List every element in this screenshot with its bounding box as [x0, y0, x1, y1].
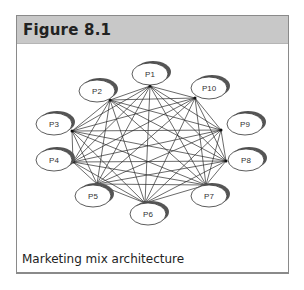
- node-label: P1: [145, 70, 155, 79]
- node-p5: P5: [75, 183, 114, 207]
- node-label: P7: [204, 192, 214, 201]
- node-label: P3: [49, 120, 59, 129]
- node-p2: P2: [79, 78, 118, 102]
- node-p4: P4: [36, 147, 75, 171]
- anchor-dot: [194, 97, 197, 100]
- edge-P2-P3: [72, 100, 110, 131]
- anchor-dot: [71, 130, 74, 133]
- network-diagram: P1P2P3P4P5P6P7P8P9P10: [0, 0, 304, 290]
- node-p6: P6: [130, 201, 169, 225]
- node-label: P5: [88, 192, 98, 201]
- anchor-dot: [225, 160, 228, 163]
- node-label: P9: [240, 120, 250, 129]
- node-label: P6: [143, 210, 153, 219]
- edge-P6-P10: [145, 98, 195, 203]
- node-p8: P8: [228, 147, 267, 171]
- edge-P1-P6: [145, 86, 150, 203]
- node-p1: P1: [132, 61, 171, 85]
- edge-P3-P8: [72, 131, 226, 161]
- anchor-dot: [220, 129, 223, 132]
- edge-P3-P9: [72, 130, 221, 131]
- node-p3: P3: [36, 111, 75, 135]
- edge-P1-P10: [150, 86, 195, 98]
- node-group: P1P2P3P4P5P6P7P8P9P10: [36, 61, 267, 225]
- node-label: P2: [92, 87, 102, 96]
- edge-P5-P8: [97, 161, 226, 184]
- node-p7: P7: [191, 183, 230, 207]
- node-label: P8: [241, 156, 251, 165]
- edge-P2-P10: [110, 98, 195, 100]
- node-label: P10: [202, 84, 217, 93]
- node-p10: P10: [191, 75, 230, 99]
- edge-P7-P10: [195, 98, 206, 185]
- node-label: P4: [49, 156, 59, 165]
- node-p9: P9: [227, 111, 266, 135]
